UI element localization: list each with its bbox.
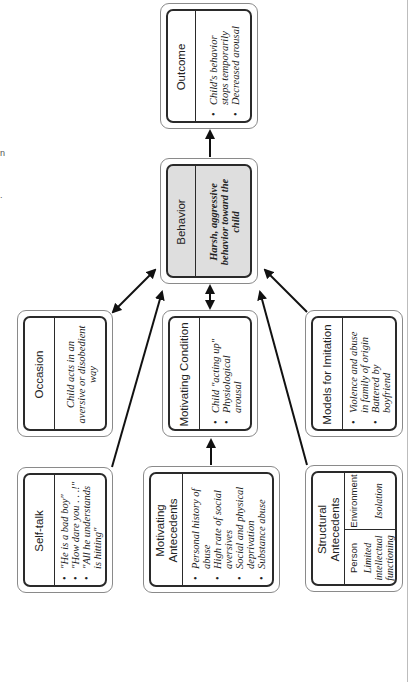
outcome-inner: Outcome Child's behavior stops temporari… xyxy=(166,9,252,123)
structural-antecedents-inner: Structural Antecedents Person Limited in… xyxy=(311,471,397,586)
self-talk-body: "He is a bad boy" "How dare you . . .!" … xyxy=(55,475,107,587)
behavior-box: Behavior Harsh, aggressive behavior towa… xyxy=(160,158,258,284)
motivating-antecedents-inner: Motivating Antecedents Personal history … xyxy=(149,472,274,587)
outcome-item: Child's behavior stops temporarily xyxy=(208,17,230,105)
motivating-condition-title: Motivating Condition xyxy=(170,318,200,431)
models-for-imitation-body: Violence and abuse in family of origin B… xyxy=(343,318,397,431)
arrow-occasion-behavior xyxy=(113,270,155,312)
environment-label: Environment xyxy=(345,474,359,527)
environment-value: Isolation xyxy=(359,480,397,522)
motivating-condition-item: Physiological arousal xyxy=(221,324,243,413)
person-label: Person xyxy=(345,543,359,573)
motivating-antecedents-box: Motivating Antecedents Personal history … xyxy=(143,466,280,593)
motivating-condition-item: Child "acting up" xyxy=(210,324,221,413)
motivating-antecedents-item: Substance abuse xyxy=(256,480,267,569)
outcome-title: Outcome xyxy=(168,11,196,123)
page-edge-line xyxy=(407,0,408,682)
behavior-text: Harsh, aggressive behavior toward the ch… xyxy=(196,166,252,278)
arrow-structural-to-behavior xyxy=(260,292,307,465)
arrow-models-to-behavior xyxy=(265,270,307,312)
outcome-body: Child's behavior stops temporarily Decre… xyxy=(196,11,252,123)
motivating-antecedents-item: Social and physical deprivation xyxy=(234,480,256,569)
occasion-text: Child acts in an aversive or disobedient… xyxy=(55,318,107,431)
occasion-title: Occasion xyxy=(25,318,55,431)
self-talk-inner: Self-talk "He is a bad boy" "How dare yo… xyxy=(23,473,107,587)
arrow-selftalk-to-behavior xyxy=(112,292,162,467)
occasion-inner: Occasion Child acts in an aversive or di… xyxy=(23,316,107,431)
occasion-box: Occasion Child acts in an aversive or di… xyxy=(17,310,113,437)
self-talk-item: "How dare you . . .!" xyxy=(70,481,81,569)
motivating-antecedents-title: Motivating Antecedents xyxy=(151,474,183,587)
models-item: Battered by boyfriend xyxy=(370,324,392,413)
models-for-imitation-title: Models for Imitation xyxy=(313,318,343,431)
caption-fragment: n xyxy=(0,148,6,158)
motivating-antecedents-item: High rate of social aversives xyxy=(212,480,234,569)
structural-antecedents-title: Structural Antecedents xyxy=(313,473,345,586)
models-for-imitation-box: Models for Imitation Violence and abuse … xyxy=(305,310,403,437)
motivating-antecedents-item: Personal history of abuse xyxy=(190,480,212,569)
self-talk-item: "All he understands is hitting" xyxy=(81,481,103,569)
structural-antecedents-columns: Person Limited intellectual functioning … xyxy=(345,473,397,586)
self-talk-box: Self-talk "He is a bad boy" "How dare yo… xyxy=(17,467,113,593)
models-for-imitation-inner: Models for Imitation Violence and abuse … xyxy=(311,316,397,431)
motivating-condition-box: Motivating Condition Child "acting up" P… xyxy=(162,310,258,437)
behavior-title: Behavior xyxy=(168,166,196,278)
motivating-condition-body: Child "acting up" Physiological arousal xyxy=(200,318,252,431)
structural-environment-column: Environment Isolation xyxy=(345,473,397,530)
structural-antecedents-box: Structural Antecedents Person Limited in… xyxy=(305,465,403,592)
person-value: Limited intellectual functioning xyxy=(359,530,397,586)
self-talk-item: "He is a bad boy" xyxy=(59,481,70,569)
motivating-antecedents-body: Personal history of abuse High rate of s… xyxy=(183,474,274,587)
models-item: Violence and abuse in family of origin xyxy=(348,324,370,413)
outcome-box: Outcome Child's behavior stops temporari… xyxy=(160,3,258,129)
behavior-inner: Behavior Harsh, aggressive behavior towa… xyxy=(166,164,252,278)
outcome-item: Decreased arousal xyxy=(230,17,241,105)
motivating-condition-inner: Motivating Condition Child "acting up" P… xyxy=(168,316,252,431)
structural-person-column: Person Limited intellectual functioning xyxy=(345,530,397,586)
caption-fragment: . xyxy=(0,190,6,200)
self-talk-title: Self-talk xyxy=(25,475,55,587)
